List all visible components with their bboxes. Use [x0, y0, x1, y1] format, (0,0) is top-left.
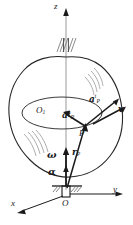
position-vector-label: rP [72, 148, 80, 157]
z-axis-arrowhead [63, 8, 69, 16]
particle-point-marker [84, 125, 86, 127]
x-axis-line [22, 196, 63, 211]
tangential-acceleration-label: atP [89, 94, 100, 104]
z-axis-label: z [54, 2, 58, 11]
rigid-body-rotation-figure: z x y O O1 P anP atP v rP ω α [0, 0, 133, 225]
origin-label: O [62, 199, 69, 208]
center-point-symbol: O [36, 105, 43, 115]
tangential-acceleration-subscript: P [96, 98, 99, 104]
x-axis-label: x [11, 199, 15, 208]
normal-acceleration-label: anP [62, 110, 74, 120]
body-shading-lower-left [24, 130, 48, 156]
body-shading-upper-right [85, 68, 103, 95]
particle-point-label: P [79, 129, 85, 138]
angular-acceleration-label: α [48, 167, 56, 177]
center-point-subscript: 1 [43, 109, 46, 115]
angular-acceleration-arrowhead [63, 165, 69, 172]
angular-velocity-label: ω [47, 150, 57, 160]
position-vector-subscript: P [77, 151, 80, 157]
angular-velocity-arrowhead [63, 147, 69, 155]
normal-acceleration-subscript: P [71, 114, 74, 120]
y-axis-label: y [113, 185, 117, 194]
center-point-label: O1 [36, 106, 45, 115]
velocity-label: v [118, 104, 124, 114]
